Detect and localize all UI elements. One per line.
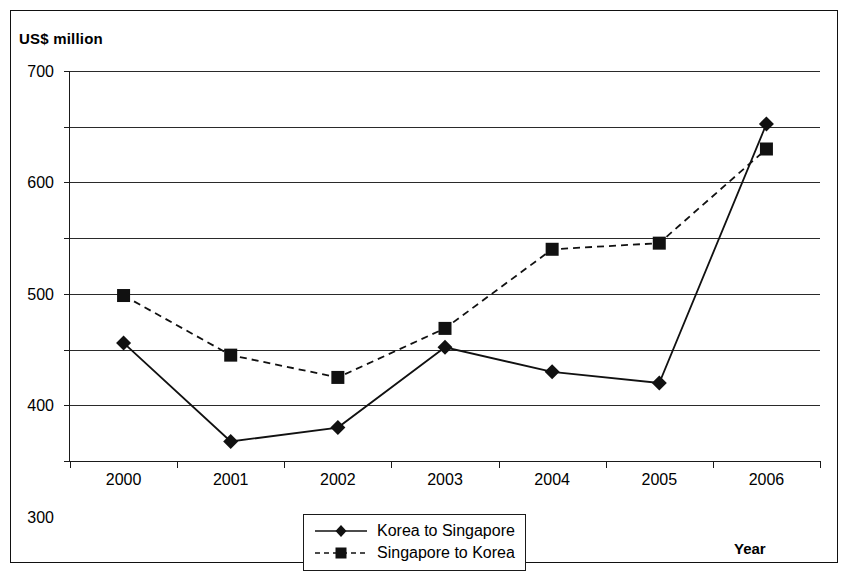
chart-figure: US$ million 7006005004003002001000 20002… — [10, 10, 838, 563]
data-point-marker — [545, 364, 560, 379]
x-axis-tick — [713, 461, 714, 468]
y-axis-tick-label: 500 — [27, 286, 54, 304]
x-axis-tick-label: 2004 — [534, 471, 570, 489]
plot-area: 7006005004003002001000 20002001200220032… — [69, 71, 820, 462]
data-point-marker — [330, 420, 345, 435]
x-axis-tick-label: 2003 — [427, 471, 463, 489]
x-axis-tick-label: 2006 — [749, 471, 785, 489]
diamond-marker-icon — [314, 522, 368, 540]
x-axis-tick — [284, 461, 285, 468]
x-axis-tick — [70, 461, 71, 468]
x-axis-tick — [499, 461, 500, 468]
x-axis-tick — [820, 461, 821, 468]
data-point-marker — [759, 116, 774, 131]
y-axis-tick-label: 600 — [27, 174, 54, 192]
data-point-marker — [117, 289, 130, 302]
x-axis-tick — [391, 461, 392, 468]
legend-label: Singapore to Korea — [377, 544, 515, 562]
y-axis-tick-label: 400 — [27, 397, 54, 415]
x-axis-title: Year — [734, 540, 766, 557]
x-axis-tick-label: 2002 — [320, 471, 356, 489]
chart-legend: Korea to Singapore Singapore to Korea — [303, 514, 526, 571]
legend-item-korea-to-singapore: Korea to Singapore — [314, 520, 515, 542]
data-point-marker — [331, 371, 344, 384]
data-point-marker — [652, 376, 667, 391]
data-point-marker — [438, 340, 453, 355]
y-axis-tick-label: 300 — [27, 509, 54, 527]
data-point-marker — [224, 349, 237, 362]
data-point-marker — [439, 322, 452, 335]
y-axis-tick-label: 700 — [27, 63, 54, 81]
legend-label: Korea to Singapore — [377, 522, 515, 540]
legend-item-singapore-to-korea: Singapore to Korea — [314, 542, 515, 564]
square-marker-icon — [314, 544, 368, 562]
data-point-marker — [546, 243, 559, 256]
data-point-marker — [653, 237, 666, 250]
x-axis-tick-label: 2001 — [213, 471, 249, 489]
series-layer — [70, 71, 820, 461]
series-line — [124, 124, 767, 442]
plot-wrapper: 7006005004003002001000 20002001200220032… — [11, 11, 839, 564]
x-axis-tick — [177, 461, 178, 468]
x-axis-tick-label: 2000 — [106, 471, 142, 489]
x-axis-tick — [606, 461, 607, 468]
data-point-marker — [760, 143, 773, 156]
x-axis-tick-label: 2005 — [641, 471, 677, 489]
